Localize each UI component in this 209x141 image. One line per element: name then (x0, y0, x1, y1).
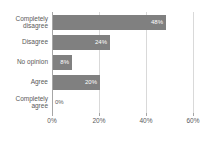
bar-row: 24% (52, 32, 194, 52)
bar-row: 8% (52, 52, 194, 72)
bar-series: 48% 24% 8% 20% 0% (52, 12, 194, 113)
bar-value-completely-disagree: 48% (138, 15, 163, 30)
category-label-line: No opinion (17, 58, 48, 66)
category-label-line: disagree (23, 22, 48, 30)
bar-value-no-opinion: 8% (54, 55, 69, 70)
tick-label-20: 20% (92, 116, 105, 126)
bar-row: 20% (52, 72, 194, 92)
value-axis-labels: 0% 20% 40% 60% (52, 116, 194, 130)
category-label-line: Completely (15, 95, 48, 103)
bar-value-agree: 20% (72, 75, 97, 90)
category-label-no-opinion: No opinion (0, 52, 48, 72)
category-label-line: Disagree (22, 38, 48, 46)
category-label-agree: Agree (0, 72, 48, 92)
category-label-disagree: Disagree (0, 32, 48, 52)
bar-chart: Completely disagree Disagree No opinion … (0, 0, 209, 141)
tick-label-0: 0% (47, 116, 56, 126)
category-axis-labels: Completely disagree Disagree No opinion … (0, 12, 48, 113)
category-label-completely-disagree: Completely disagree (0, 12, 48, 32)
bar-value-disagree: 24% (82, 35, 107, 50)
tick-label-60: 60% (186, 116, 199, 126)
category-label-line: agree (31, 102, 48, 110)
plot-area: 48% 24% 8% 20% 0% (52, 12, 194, 113)
bar-row: 48% (52, 12, 194, 32)
bar-row: 0% (52, 92, 194, 112)
bar-value-completely-agree: 0% (55, 95, 75, 110)
category-label-completely-agree: Completely agree (0, 92, 48, 112)
category-label-line: Completely (15, 15, 48, 23)
tick-label-40: 40% (139, 116, 152, 126)
category-label-line: Agree (31, 78, 48, 86)
